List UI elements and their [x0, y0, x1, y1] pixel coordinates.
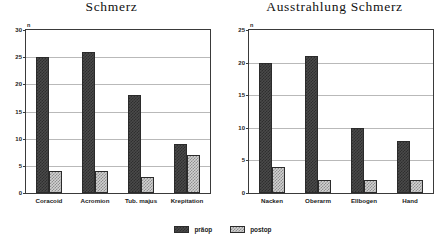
legend-item-postop[interactable]: postop — [230, 226, 271, 233]
bar-group: Coracoid — [26, 30, 72, 193]
bar-group: Oberarm — [295, 30, 341, 193]
bar-postop — [141, 177, 153, 193]
x-axis-category-label: Oberarm — [295, 197, 341, 204]
bar-preop — [174, 144, 186, 193]
bar-postop — [272, 167, 284, 193]
y-tick-label: 5 — [19, 163, 22, 169]
y-tick-label: 20 — [15, 81, 22, 87]
bar-postop — [49, 171, 61, 193]
y-tick-label: 15 — [238, 92, 245, 98]
tick-mark — [246, 193, 249, 194]
y-tick-label: 0 — [19, 190, 22, 196]
y-tick-label: 15 — [15, 109, 22, 115]
y-tick-label: 20 — [238, 60, 245, 66]
y-tick-label: 5 — [242, 157, 245, 163]
chart-legend: präoppostop — [0, 218, 446, 240]
bar-postop — [410, 180, 422, 193]
y-tick-label: 25 — [238, 27, 245, 33]
chart-panel-ausstrahlung-schmerz: Ausstrahlung Schmerz n 0510152025 Nacken… — [223, 0, 446, 214]
x-axis-category-label: Nacken — [249, 197, 295, 204]
bar-postop — [95, 171, 107, 193]
figure-two-bar-charts: Schmerz n 051015202530 CoracoidAcromionT… — [0, 0, 446, 240]
legend-label-postop: postop — [250, 226, 271, 233]
y-tick-label: 25 — [15, 54, 22, 60]
legend-swatch-postop — [230, 226, 245, 233]
plot-area-right: 0510152025 NackenOberarmEllbogenHand — [248, 29, 434, 194]
x-axis-category-label: Hand — [387, 197, 433, 204]
bar-group: Hand — [387, 30, 433, 193]
y-tick-label: 10 — [238, 125, 245, 131]
bar-preop — [82, 52, 94, 193]
bar-group: Acromion — [72, 30, 118, 193]
bars-layer-left: CoracoidAcromionTub. majusKrepitation — [26, 30, 210, 193]
x-axis-category-label: Tub. majus — [118, 197, 164, 204]
chart-title-left: Schmerz — [0, 0, 223, 15]
y-axis-unit-left: n — [27, 22, 30, 28]
y-tick-label: 10 — [15, 136, 22, 142]
bar-preop — [305, 56, 317, 193]
chart-title-right: Ausstrahlung Schmerz — [223, 0, 446, 15]
bar-group: Krepitation — [164, 30, 210, 193]
bar-postop — [187, 155, 199, 193]
y-tick-label: 30 — [15, 27, 22, 33]
bar-postop — [364, 180, 376, 193]
bar-preop — [259, 63, 271, 193]
bar-preop — [128, 95, 140, 193]
chart-panel-schmerz: Schmerz n 051015202530 CoracoidAcromionT… — [0, 0, 223, 214]
legend-swatch-preop — [174, 226, 189, 233]
x-axis-category-label: Krepitation — [164, 197, 210, 204]
legend-item-preop[interactable]: präop — [174, 226, 212, 233]
tick-mark — [23, 193, 26, 194]
plot-area-left: 051015202530 CoracoidAcromionTub. majusK… — [25, 29, 211, 194]
x-axis-category-label: Ellbogen — [341, 197, 387, 204]
chart-panels: Schmerz n 051015202530 CoracoidAcromionT… — [0, 0, 446, 214]
x-axis-category-label: Acromion — [72, 197, 118, 204]
y-tick-label: 0 — [242, 190, 245, 196]
bar-postop — [318, 180, 330, 193]
bars-layer-right: NackenOberarmEllbogenHand — [249, 30, 433, 193]
bar-group: Ellbogen — [341, 30, 387, 193]
bar-group: Nacken — [249, 30, 295, 193]
bar-preop — [397, 141, 409, 193]
bar-group: Tub. majus — [118, 30, 164, 193]
x-axis-category-label: Coracoid — [26, 197, 72, 204]
bar-preop — [36, 57, 48, 193]
legend-label-preop: präop — [194, 226, 212, 233]
bar-preop — [351, 128, 363, 193]
y-axis-unit-right: n — [250, 22, 253, 28]
